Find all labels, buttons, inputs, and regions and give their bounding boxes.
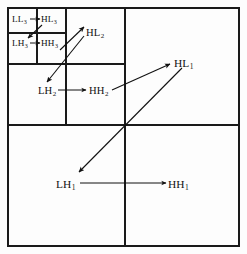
subband-label-hh3: HH3: [41, 39, 58, 49]
subband-label-base: HL: [86, 27, 100, 38]
subband-label-subscript: 1: [185, 183, 189, 192]
subband-label-subscript: 3: [23, 19, 27, 25]
scan-arrow-hl1-to-lh1: [79, 68, 182, 172]
scan-arrow-hl3-to-lh3: [28, 25, 42, 38]
diagram-canvas: [0, 0, 247, 254]
subband-label-hh2: HH2: [89, 86, 109, 98]
subband-label-base: HH: [41, 38, 54, 48]
subband-label-base: HH: [89, 85, 105, 96]
subband-label-hl1: HL1: [174, 58, 194, 70]
subband-label-lh3: LH3: [12, 39, 28, 49]
subband-label-base: HL: [174, 57, 189, 69]
subband-label-hl3: HL3: [41, 15, 57, 25]
subband-label-hl2: HL2: [86, 28, 104, 40]
subband-label-base: LH: [12, 38, 24, 48]
subband-label-lh2: LH2: [38, 86, 56, 98]
subband-label-subscript: 2: [100, 32, 104, 40]
subband-label-subscript: 2: [105, 90, 109, 98]
subband-label-hh1: HH1: [168, 179, 189, 191]
subband-label-subscript: 1: [189, 62, 193, 71]
scan-arrow-hh3-to-hl2: [60, 27, 84, 50]
subband-label-base: HL: [41, 14, 53, 24]
subband-label-base: LH: [56, 178, 71, 190]
subband-label-subscript: 3: [54, 43, 58, 49]
subband-label-subscript: 3: [24, 43, 28, 49]
scan-arrow-hh2-to-hl1: [112, 64, 170, 90]
subband-label-base: LL: [12, 14, 23, 24]
subband-label-subscript: 1: [71, 183, 75, 192]
subband-label-ll3: LL3: [12, 15, 27, 25]
subband-label-base: LH: [38, 85, 52, 96]
subband-label-subscript: 2: [52, 90, 56, 98]
subband-label-subscript: 3: [53, 19, 57, 25]
subband-label-lh1: LH1: [56, 179, 76, 191]
wavelet-subband-diagram: LL3HL3LH3HH3HL2LH2HH2HL1LH1HH1: [0, 0, 247, 254]
subband-label-base: HH: [168, 178, 185, 190]
